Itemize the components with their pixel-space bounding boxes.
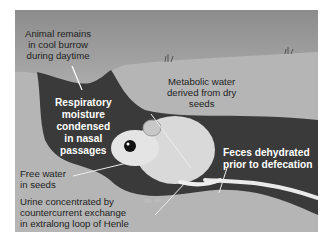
label-burrow-daytime: Animal remains in cool burrow during day… — [25, 28, 91, 61]
feces-pellet — [144, 199, 152, 203]
rat-eye — [124, 140, 136, 152]
label-respiratory-moisture: Respiratory moisture condensed in nasal … — [55, 97, 112, 157]
label-urine-concentrated: Urine concentrated by countercurrent exc… — [20, 196, 129, 229]
feces-pellet — [154, 198, 162, 202]
kangaroo-rat-burrow-figure: Animal remains in cool burrow during day… — [15, 10, 318, 232]
label-feces-dehydrated: Feces dehydrated prior to defecation — [223, 147, 312, 171]
label-free-water: Free water in seeds — [20, 168, 66, 190]
rat-ear — [143, 120, 161, 136]
label-metabolic-water: Metabolic water derived from dry seeds — [167, 76, 236, 109]
